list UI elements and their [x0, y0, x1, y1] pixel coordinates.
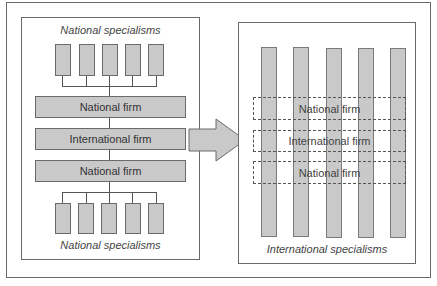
national-firm-box-bottom: National firm: [35, 160, 186, 182]
international-firm-box: International firm: [35, 128, 186, 150]
connector-line: [132, 76, 133, 86]
connector-line: [62, 192, 63, 203]
connector-bar: [62, 192, 157, 193]
national-specialism-box: [148, 203, 164, 234]
firm-label: International firm: [289, 135, 371, 147]
firm-label: International firm: [70, 133, 152, 145]
national-specialism-box: [125, 203, 141, 234]
connector-line: [156, 76, 157, 86]
national-firm-box-top: National firm: [35, 96, 186, 118]
national-firm-dashed-bottom: National firm: [253, 161, 406, 184]
left-bottom-caption: National specialisms: [21, 239, 200, 251]
right-bottom-caption: International specialisms: [238, 243, 416, 255]
firm-label: National firm: [299, 103, 361, 115]
national-firm-dashed-top: National firm: [253, 97, 406, 120]
connector-trunk: [109, 76, 110, 96]
firm-label: National firm: [299, 167, 361, 179]
connector-line: [132, 192, 133, 203]
national-specialism-box: [101, 203, 117, 234]
firm-label: National firm: [80, 165, 142, 177]
national-specialism-box: [125, 44, 141, 76]
international-firm-dashed: International firm: [253, 130, 406, 152]
national-specialism-box: [148, 44, 164, 76]
national-specialism-box: [55, 44, 71, 76]
national-specialism-box: [102, 44, 118, 76]
connector-line: [86, 192, 87, 203]
firm-label: National firm: [80, 101, 142, 113]
left-top-caption: National specialisms: [21, 24, 200, 36]
connector-line: [156, 192, 157, 203]
connector-line: [86, 76, 87, 86]
national-specialism-box: [78, 203, 94, 234]
connector-trunk: [109, 118, 110, 128]
national-specialism-box: [79, 44, 95, 76]
national-specialism-box: [55, 203, 71, 234]
connector-line: [62, 76, 63, 86]
